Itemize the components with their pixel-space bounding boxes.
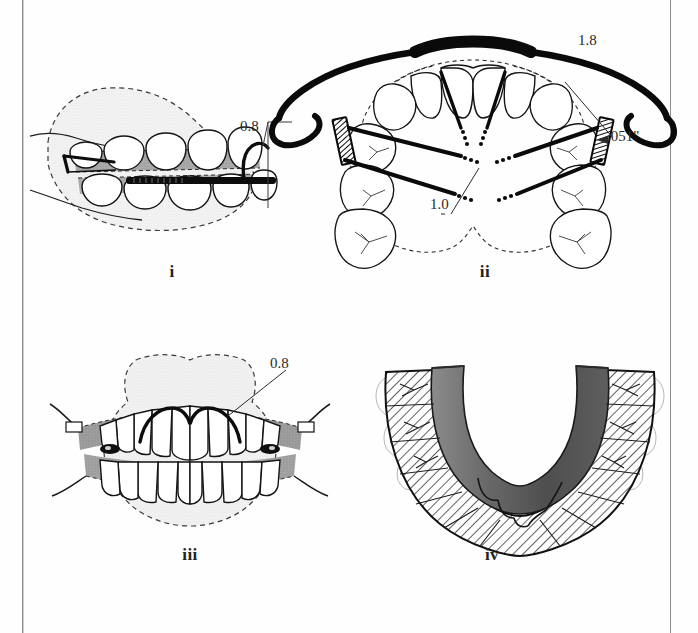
anterior-spring-tip-dots <box>461 130 487 146</box>
maxillary-teeth-left <box>335 84 416 268</box>
figure-page: 0.8 i <box>0 0 698 633</box>
spring-tip-dots-right <box>495 156 513 202</box>
lower-teeth-frontal-iii <box>100 460 280 504</box>
panel-iv-mandibular-occlusal <box>370 350 670 550</box>
caption-panel-iv: iv <box>462 545 522 565</box>
page-left-rule <box>22 0 23 633</box>
caption-panel-ii: ii <box>455 262 515 282</box>
caption-panel-i: i <box>142 262 202 282</box>
label-0-8-panel-iii: 0.8 <box>270 355 289 372</box>
caption-panel-iii: iii <box>160 545 220 565</box>
molar-tube-left <box>332 117 355 165</box>
panel-iii-frontal-view <box>40 350 340 540</box>
label-1-0: 1.0 <box>430 196 449 213</box>
spring-tip-dots-left <box>457 156 479 202</box>
archwire-tube-i <box>126 177 276 184</box>
label-051-inch: .051" <box>607 128 639 145</box>
label-1-8: 1.8 <box>578 32 597 49</box>
maxillary-teeth-anterior <box>411 65 535 118</box>
teeth-hatched-horseshoe-iv <box>385 370 654 556</box>
panel-ii-maxillary-occlusal <box>265 18 685 278</box>
maxillary-teeth-right <box>530 84 611 268</box>
label-0-8-panel-i: 0.8 <box>240 118 259 135</box>
